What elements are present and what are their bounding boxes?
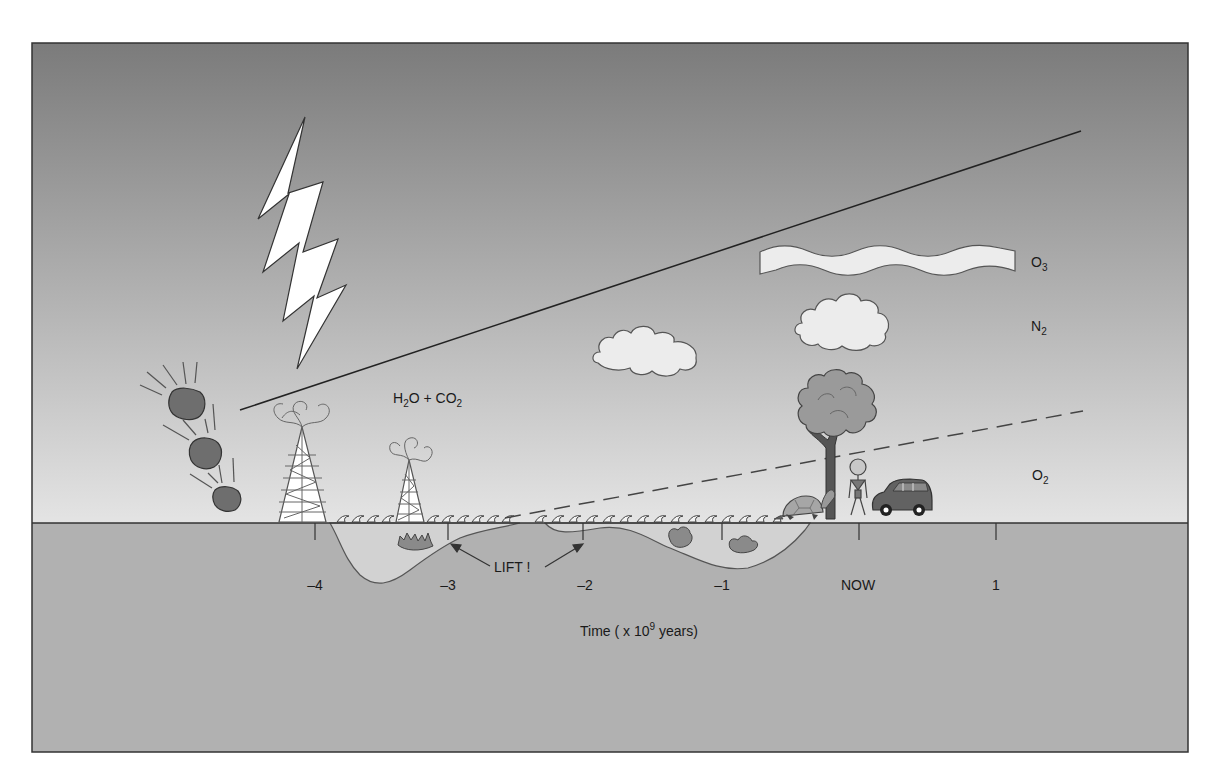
axis-title: Time ( x 109 years) — [580, 621, 698, 639]
tick-label: –3 — [440, 577, 456, 593]
tick-label: –4 — [307, 577, 323, 593]
meteor-icon — [213, 487, 241, 512]
meteor-icon — [169, 388, 205, 419]
tick-label: –1 — [714, 577, 730, 593]
earth-atmosphere-evolution-diagram: LIFT ! –4 –3 –2 –1 NOW 1 Time ( x 109 ye… — [0, 0, 1215, 775]
tick-label: –2 — [577, 577, 593, 593]
stromatolite-icon — [669, 527, 692, 547]
tick-label: 1 — [992, 577, 1000, 593]
lift-label: LIFT ! — [494, 559, 530, 575]
meteor-icon — [189, 438, 221, 469]
tick-label: NOW — [841, 577, 876, 593]
